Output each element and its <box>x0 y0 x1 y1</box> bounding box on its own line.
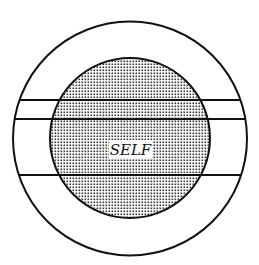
self-diagram: SELF <box>0 0 259 265</box>
inner-circle-self <box>50 58 210 218</box>
center-label: SELF <box>110 141 152 159</box>
